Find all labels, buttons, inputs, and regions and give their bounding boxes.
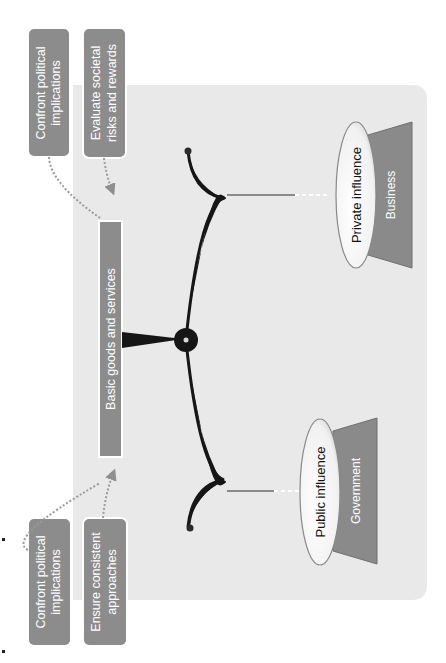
policy-box-encourage-line1: Confront political <box>34 535 48 628</box>
crop-mark-top <box>2 538 5 541</box>
policy-box-evaluate: Evaluate societal risks and rewards <box>83 28 126 158</box>
policy-box-ensure: Ensure consistent approaches <box>83 518 127 646</box>
policy-box-evaluate-line1: Evaluate societal <box>89 46 103 141</box>
policy-box-confront-line2: implications <box>49 60 63 125</box>
policy-box-encourage: Confront political implications <box>28 518 71 646</box>
influence-public-label: Public influence <box>313 446 328 537</box>
center-bar: Basic goods and services <box>99 221 122 457</box>
influence-private-label: Private influence <box>349 147 364 243</box>
policy-box-evaluate-line2: risks and rewards <box>105 44 119 142</box>
sector-business-label: Business <box>384 171 398 220</box>
crop-mark-bottom <box>2 650 5 653</box>
arm-tip-left <box>187 525 194 532</box>
policy-box-ensure-line1: Ensure consistent <box>89 532 103 632</box>
policy-box-ensure-line2: approaches <box>105 549 119 614</box>
policy-box-confront-line1: Confront political <box>34 46 48 139</box>
influence-public: Public influence <box>300 419 340 565</box>
center-bar-label: Basic goods and services <box>104 268 118 410</box>
scale-diagram: Confront political implications Ensure c… <box>0 0 446 663</box>
policy-box-encourage-line2: implications <box>49 549 63 614</box>
policy-box-confront: Confront political implications <box>28 28 70 157</box>
arm-tip-right <box>185 148 192 155</box>
sector-government-label: Government <box>349 457 363 524</box>
influence-private: Private influence <box>336 122 376 268</box>
